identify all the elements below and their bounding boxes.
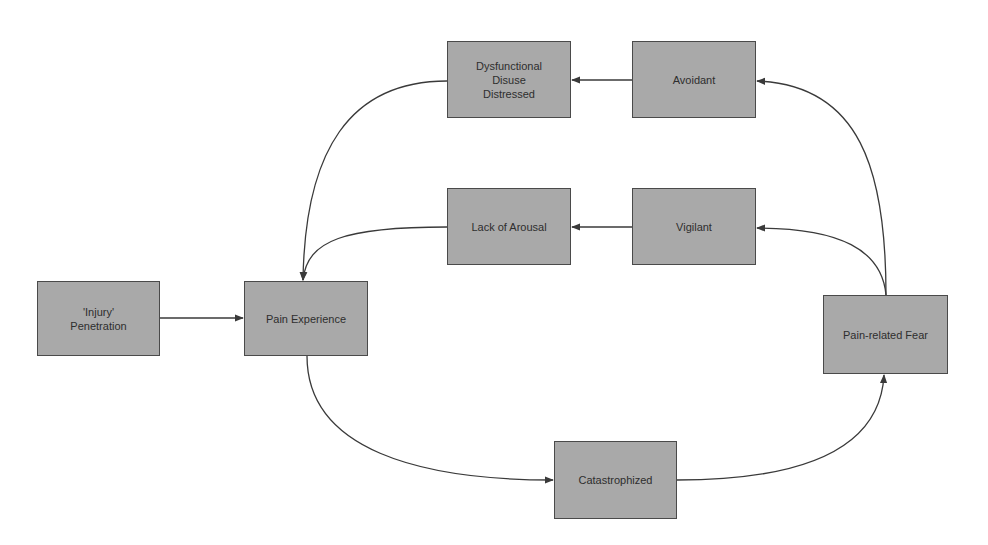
edge-dysfunctional-to-pain-experience	[303, 81, 447, 280]
node-injury-line2: Penetration	[70, 319, 126, 333]
node-avoidant: Avoidant	[632, 41, 756, 118]
node-injury-line1: 'Injury'	[70, 305, 126, 319]
node-pain-experience: Pain Experience	[244, 281, 368, 356]
edge-lack-of-arousal-to-pain-experience	[303, 227, 447, 280]
node-pain-experience-label: Pain Experience	[266, 312, 346, 326]
node-catastrophized: Catastrophized	[554, 441, 677, 519]
node-dysfunctional-line2: Disuse	[476, 73, 542, 87]
edge-pain-experience-to-catastrophized	[307, 356, 553, 480]
edge-catastrophized-to-fear	[677, 375, 884, 480]
edge-fear-to-vigilant	[757, 228, 886, 295]
node-dysfunctional-disuse-distressed: Dysfunctional Disuse Distressed	[447, 41, 571, 118]
diagram-canvas: 'Injury' Penetration Pain Experience Dys…	[0, 0, 988, 545]
node-vigilant-label: Vigilant	[676, 220, 712, 234]
node-pain-related-fear: Pain-related Fear	[823, 295, 948, 374]
node-injury-penetration: 'Injury' Penetration	[37, 281, 160, 356]
node-dysfunctional-line1: Dysfunctional	[476, 59, 542, 73]
node-dysfunctional-line3: Distressed	[476, 87, 542, 101]
node-lack-of-arousal-label: Lack of Arousal	[471, 220, 546, 234]
node-avoidant-label: Avoidant	[673, 73, 716, 87]
node-catastrophized-label: Catastrophized	[579, 473, 653, 487]
edge-fear-to-avoidant	[757, 81, 886, 295]
node-lack-of-arousal: Lack of Arousal	[447, 188, 571, 265]
node-pain-related-fear-label: Pain-related Fear	[843, 328, 928, 342]
node-vigilant: Vigilant	[632, 188, 756, 265]
